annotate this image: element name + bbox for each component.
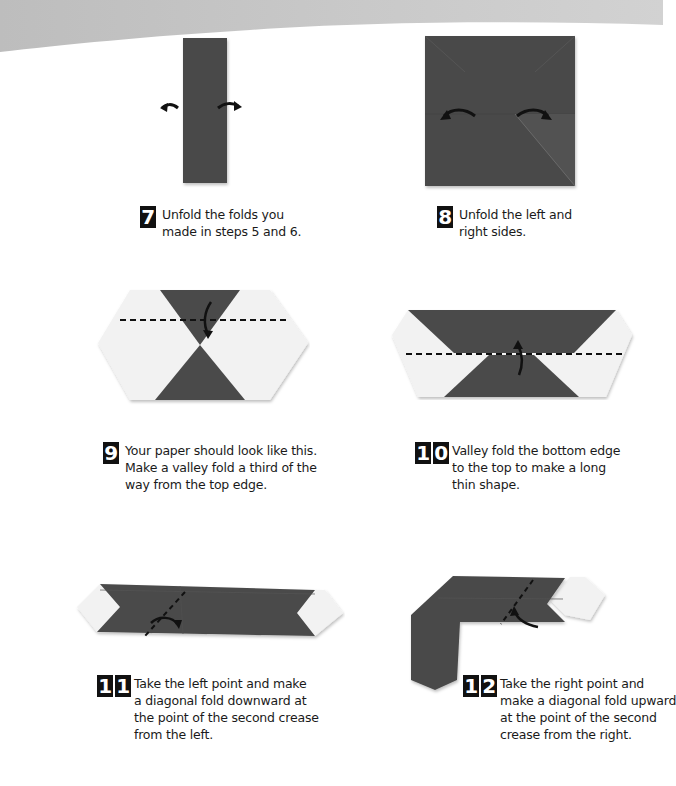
step-9-caption: 9 Your paper should look like this. Make… — [103, 442, 363, 502]
caption-line: the point of the second crease — [134, 709, 319, 726]
step-12-caption: 1 2 Take the right point and make a diag… — [463, 675, 663, 755]
caption-line: Unfold the left and — [459, 206, 572, 223]
step-8-caption: 8 Unfold the left and right sides. — [437, 206, 637, 246]
step-10-number-badge: 1 0 — [415, 442, 449, 464]
step-7-caption: 7 Unfold the folds you made in steps 5 a… — [140, 206, 340, 246]
step-11-diagram — [75, 580, 345, 650]
caption-line: made in steps 5 and 6. — [162, 223, 301, 240]
step-11-caption: 1 1 Take the left point and make a diago… — [97, 675, 337, 755]
step-8-number-badge: 8 — [437, 206, 453, 228]
caption-line: make a diagonal fold upward — [500, 692, 676, 709]
caption-line: thin shape. — [452, 476, 620, 493]
caption-line: a diagonal fold downward at — [134, 692, 319, 709]
step-10-caption: 1 0 Valley fold the bottom edge to the t… — [415, 442, 655, 502]
caption-line: to the top to make a long — [452, 459, 620, 476]
caption-line: Unfold the folds you — [162, 206, 301, 223]
step-number-digit: 1 — [115, 675, 131, 697]
caption-line: Take the left point and make — [134, 675, 319, 692]
step-number-digit: 8 — [437, 206, 453, 228]
step-11-number-badge: 1 1 — [97, 675, 131, 697]
caption-line: from the left. — [134, 726, 319, 743]
caption-line: Your paper should look like this. — [125, 442, 317, 459]
step-7-diagram — [160, 30, 250, 195]
step-12-number-badge: 1 2 — [463, 675, 497, 697]
caption-line: Make a valley fold a third of the — [125, 459, 317, 476]
step-number-digit: 1 — [415, 442, 431, 464]
step-number-digit: 7 — [140, 206, 156, 228]
step-7-number-badge: 7 — [140, 206, 156, 228]
caption-line: Valley fold the bottom edge — [452, 442, 620, 459]
caption-line: at the point of the second — [500, 709, 676, 726]
caption-line: way from the top edge. — [125, 476, 317, 493]
caption-line: Take the right point and — [500, 675, 676, 692]
step-9-number-badge: 9 — [103, 442, 119, 464]
step-10-diagram — [384, 305, 644, 400]
caption-line: right sides. — [459, 223, 572, 240]
step-number-digit: 1 — [97, 675, 113, 697]
step-number-digit: 9 — [103, 442, 119, 464]
step-8-diagram — [420, 32, 580, 192]
caption-line: crease from the right. — [500, 726, 676, 743]
step-number-digit: 1 — [463, 675, 479, 697]
step-9-diagram — [90, 288, 310, 413]
step-number-digit: 0 — [433, 442, 449, 464]
step-number-digit: 2 — [481, 675, 497, 697]
